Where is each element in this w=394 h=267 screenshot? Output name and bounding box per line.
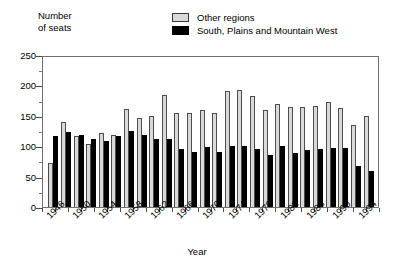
bar-south-plains-mountain-west: [129, 131, 134, 207]
bar-south-plains-mountain-west: [154, 139, 159, 207]
bar-group: [274, 57, 287, 207]
bar-group: [236, 57, 249, 207]
y-axis-tick-mark: [36, 86, 42, 87]
y-axis-minor-tick-mark: [39, 193, 42, 194]
y-axis-minor-tick-mark: [39, 71, 42, 72]
bar-south-plains-mountain-west: [66, 132, 71, 207]
bar-south-plains-mountain-west: [280, 146, 285, 207]
bar-south-plains-mountain-west: [205, 147, 210, 207]
bar-south-plains-mountain-west: [104, 141, 109, 207]
bar-group: [72, 57, 85, 207]
y-axis-tick-mark: [36, 56, 42, 57]
bar-south-plains-mountain-west: [116, 136, 121, 207]
bar-south-plains-mountain-west: [91, 139, 96, 207]
bar-group: [224, 57, 237, 207]
bar-south-plains-mountain-west: [167, 139, 172, 207]
bar-group: [173, 57, 186, 207]
bar-group: [85, 57, 98, 207]
bar-group: [211, 57, 224, 207]
x-axis-tick-labels: 1946195019541958196219661970197419781982…: [42, 210, 379, 244]
bar-south-plains-mountain-west: [192, 152, 197, 207]
bar-south-plains-mountain-west: [53, 136, 58, 207]
y-axis-tick-label: 150: [2, 112, 36, 122]
legend-swatch-black-box: [172, 26, 189, 35]
bar-south-plains-mountain-west: [79, 135, 84, 207]
bar-south-plains-mountain-west: [242, 146, 247, 207]
bar-group: [123, 57, 136, 207]
y-axis-tick-label: 50: [2, 173, 36, 183]
bar-south-plains-mountain-west: [356, 166, 361, 207]
y-axis-tick-mark: [36, 208, 42, 209]
bar-group: [47, 57, 60, 207]
bar-group: [287, 57, 300, 207]
plot-area: [42, 56, 379, 208]
bar-south-plains-mountain-west: [142, 135, 147, 207]
bar-south-plains-mountain-west: [179, 149, 184, 207]
bar-group: [324, 57, 337, 207]
bar-group: [312, 57, 325, 207]
legend-label-south-plains-mountain-west: South, Plains and Mountain West: [197, 25, 337, 36]
bar-south-plains-mountain-west: [255, 149, 260, 207]
x-axis-tick-mark: [379, 208, 380, 212]
bar-group: [135, 57, 148, 207]
bar-group: [249, 57, 262, 207]
x-axis-title: Year: [0, 246, 394, 257]
bar-group: [186, 57, 199, 207]
y-axis-tick-mark: [36, 117, 42, 118]
legend-item-other-regions: Other regions: [172, 11, 337, 24]
bar-group: [60, 57, 73, 207]
y-axis-tick-label: 250: [2, 51, 36, 61]
bar-south-plains-mountain-west: [230, 146, 235, 207]
bar-south-plains-mountain-west: [331, 148, 336, 207]
y-axis-minor-tick-mark: [39, 132, 42, 133]
y-axis-tick-mark: [36, 147, 42, 148]
y-axis-tick-label: 200: [2, 81, 36, 91]
bar-group: [350, 57, 363, 207]
y-axis-tick-label: 0: [2, 203, 36, 213]
y-axis-tick-mark: [36, 178, 42, 179]
bar-group: [148, 57, 161, 207]
bar-group: [337, 57, 350, 207]
bar-south-plains-mountain-west: [217, 152, 222, 207]
bar-group: [160, 57, 173, 207]
y-axis-title: Number of seats: [38, 10, 72, 34]
y-axis-tick-labels: 050100150200250: [0, 0, 36, 267]
bar-group: [299, 57, 312, 207]
bar-group: [97, 57, 110, 207]
legend-swatch-light-gray-box: [172, 13, 189, 22]
y-axis-minor-tick-mark: [39, 162, 42, 163]
bar-group: [362, 57, 375, 207]
bar-group: [261, 57, 274, 207]
legend-item-south-plains-mountain-west: South, Plains and Mountain West: [172, 24, 337, 37]
bar-south-plains-mountain-west: [305, 150, 310, 207]
legend-label-other-regions: Other regions: [197, 12, 255, 23]
y-axis-tick-label: 100: [2, 142, 36, 152]
bars-container: [43, 57, 378, 207]
bar-group: [198, 57, 211, 207]
legend: Other regions South, Plains and Mountain…: [172, 11, 337, 37]
bar-group: [110, 57, 123, 207]
y-axis-minor-tick-mark: [39, 102, 42, 103]
